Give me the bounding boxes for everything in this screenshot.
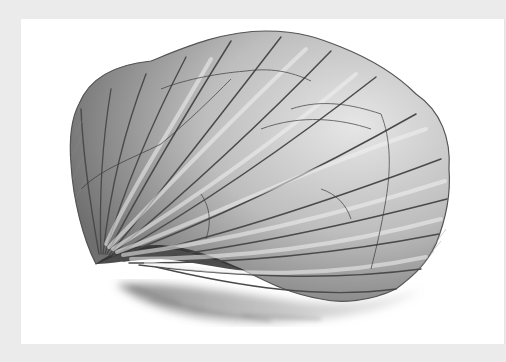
image-frame: Graphite sketch of a fan-shaped scallop … bbox=[0, 0, 506, 362]
scallop-shell-drawing bbox=[21, 19, 504, 344]
artwork-panel: Graphite sketch of a fan-shaped scallop … bbox=[21, 19, 505, 344]
